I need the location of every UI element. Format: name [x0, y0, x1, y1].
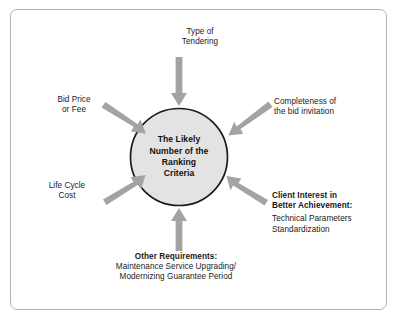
center-line-1: The Likely [158, 134, 201, 145]
label-line: Cost [31, 191, 103, 201]
center-node-text: The Likely Number of the Ranking Criteri… [130, 108, 228, 206]
arrow-client-interest [227, 176, 269, 206]
label-line: Completeness of [274, 97, 384, 107]
label-line: Life Cycle [31, 181, 103, 191]
diagram-canvas: The Likely Number of the Ranking Criteri… [0, 0, 399, 325]
center-line-2: Number of the [150, 146, 209, 157]
label-line: Bid Price [38, 95, 110, 105]
label-completeness-of-bid-invitation: Completeness of the bid invitation [274, 97, 384, 117]
label-line: or Fee [38, 105, 110, 115]
center-line-4: Criteria [164, 168, 195, 179]
arrow-completeness-of-bid-invitation [229, 102, 273, 136]
label-client-interest: Client Interest in Better Achievement: T… [272, 191, 394, 235]
label-line: Tendering [155, 37, 245, 47]
label-heading-line: Better Achievement: [272, 201, 394, 211]
label-line: the bid invitation [274, 107, 384, 117]
center-line-3: Ranking [162, 157, 196, 168]
label-line: Technical Parameters [272, 214, 394, 224]
label-bid-price-or-fee: Bid Price or Fee [38, 95, 110, 115]
arrow-type-of-tendering [171, 57, 187, 106]
arrow-other-requirements [171, 208, 187, 251]
label-type-of-tendering: Type of Tendering [155, 27, 245, 47]
label-life-cycle-cost: Life Cycle Cost [31, 181, 103, 201]
label-line: Maintenance Service Upgrading/ [76, 262, 276, 272]
label-line: Type of [155, 27, 245, 37]
label-line: Standardization [272, 225, 394, 235]
label-other-requirements: Other Requirements: Maintenance Service … [76, 252, 276, 283]
label-line: Modernizing Guarantee Period [76, 272, 276, 282]
label-heading-line: Other Requirements: [76, 252, 276, 262]
label-heading-line: Client Interest in [272, 191, 394, 201]
